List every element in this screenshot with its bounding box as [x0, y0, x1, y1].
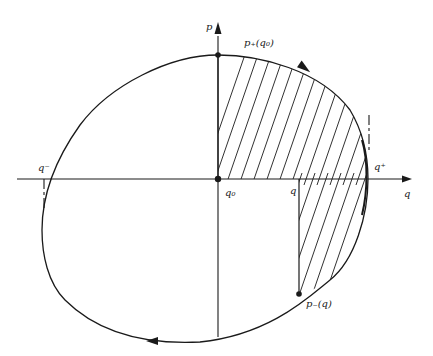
orbit-arrow-bottom-icon: [146, 337, 158, 345]
p-axis-arrow-icon: [215, 22, 222, 34]
q-axis-arrow-icon: [402, 176, 412, 183]
point-p-plus-q0: [215, 52, 221, 58]
point-p-minus-q: [296, 291, 302, 297]
hatched-region: [200, 40, 406, 310]
q0-label: q₀: [225, 188, 235, 198]
phase-diagram: [0, 0, 433, 356]
q-label: q: [290, 186, 296, 196]
q-minus-label: q⁻: [38, 163, 50, 173]
p-minus-q-label: p₋(q): [306, 299, 332, 309]
p-axis-label: p: [206, 22, 212, 32]
q-plus-label: q⁺: [374, 162, 386, 172]
point-q0: [215, 176, 221, 182]
orbit-arrow-right-icon: [297, 60, 313, 72]
q-axis-label: q: [404, 189, 410, 199]
p-plus-q0-label: p₊(q₀): [244, 38, 274, 48]
